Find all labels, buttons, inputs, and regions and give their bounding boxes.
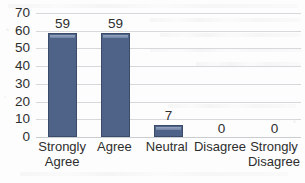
- bar-slot-strongly-agree: 59: [36, 13, 89, 137]
- y-tick-label: 50: [15, 42, 30, 56]
- y-tick-label: 40: [15, 59, 30, 73]
- bar-slot-agree: 59: [89, 13, 142, 137]
- x-axis: Strongly Agree Agree Neutral Disagree St…: [36, 139, 301, 170]
- bar-data-label: 0: [195, 122, 248, 136]
- bar-highlight: [103, 35, 128, 38]
- y-tick-label: 70: [15, 6, 30, 20]
- bar-series: 59 59 7 0: [36, 13, 301, 137]
- bar-data-label: 59: [36, 17, 89, 31]
- bar-highlight: [156, 127, 181, 130]
- y-tick-label: 30: [15, 77, 30, 91]
- bar-strongly-agree[interactable]: [48, 33, 77, 138]
- x-category-label-strongly-agree: Strongly Agree: [36, 139, 88, 170]
- y-tick-label: 20: [15, 95, 30, 109]
- x-category-label-agree: Agree: [88, 139, 140, 170]
- bar-highlight: [50, 35, 75, 38]
- bar-slot-disagree: 0: [195, 13, 248, 137]
- bar-agree[interactable]: [101, 33, 130, 138]
- bar-data-label: 0: [248, 122, 301, 136]
- axis-baseline: [36, 137, 301, 138]
- y-axis: 70 60 50 40 30 20 10 0: [0, 13, 34, 137]
- bar-chart: 70 60 50 40 30 20 10 0 59: [0, 0, 305, 183]
- bar-neutral[interactable]: [154, 125, 183, 137]
- y-tick-label: 0: [22, 130, 30, 144]
- y-tick-label: 60: [15, 24, 30, 38]
- bar-slot-neutral: 7: [142, 13, 195, 137]
- bar-data-label: 7: [142, 109, 195, 123]
- x-category-label-strongly-disagree: Strongly Disagree: [247, 139, 301, 170]
- bar-data-label: 59: [89, 17, 142, 31]
- plot-area: 70 60 50 40 30 20 10 0 59: [0, 0, 305, 183]
- x-category-label-neutral: Neutral: [141, 139, 193, 170]
- x-category-label-disagree: Disagree: [193, 139, 247, 170]
- bar-slot-strongly-disagree: 0: [248, 13, 301, 137]
- y-tick-label: 10: [15, 113, 30, 127]
